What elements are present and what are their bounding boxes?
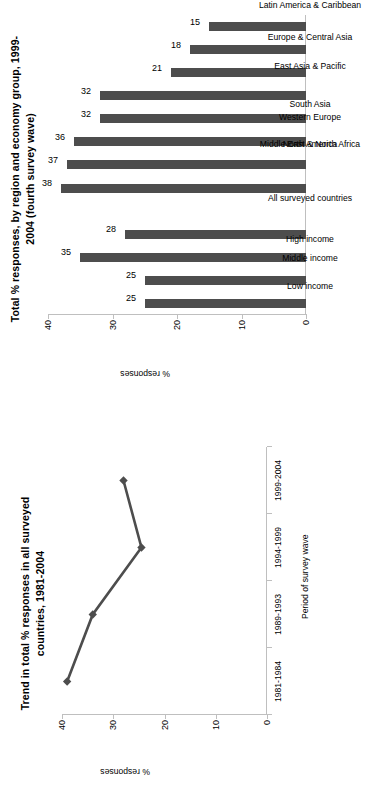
line-category-axis-label: Period of survey wave [300,534,310,619]
bar-item: 25 [48,292,306,315]
bar-category-slot: Low income [306,292,366,315]
bar-value-label: 32 [81,86,91,96]
bar-value-axis-label: % responses [120,369,170,379]
line-category-label: 1981-1984 [273,661,289,702]
bar-value-label: 35 [61,247,71,257]
bar-category-slot: Western Europe [306,130,366,153]
bar-category-slot: Middle East & North Africa [306,177,366,200]
bar-value-label: 37 [48,155,58,165]
line-x-tick [267,513,272,514]
bar-category-slot: North America [306,153,366,176]
bar-value-label: 32 [81,109,91,119]
bar-y-tick-label: 10 [237,320,247,330]
line-y-tick-label: 40 [57,720,67,730]
line-chart-title: Trend in total % responses in all survey… [18,486,48,721]
line-x-tick [267,580,272,581]
bar-gap [48,200,306,223]
line-y-tick-label: 20 [160,720,170,730]
bar-item: 25 [48,269,306,292]
line-category-slot: 1989-1993 [267,581,289,648]
bar-category-labels: Low incomeMiddle incomeHigh incomeAll su… [306,15,366,315]
bar-item: 35 [48,246,306,269]
bar-value-label: 25 [126,293,136,303]
bar [100,114,306,123]
bar-value-label: 21 [152,63,162,73]
line-x-tick [267,714,272,715]
bar [80,253,306,262]
line-x-tick [267,647,272,648]
bar-category-slot: All surveyed countries [306,223,366,246]
bar [67,161,306,170]
bar-chart-title: Total % responses, by region and economy… [8,29,38,329]
line-x-tick [267,446,272,447]
line-marker [63,677,71,685]
line-category-label: 1994-1999 [273,527,289,568]
bar-item: 28 [48,223,306,246]
bar [100,91,306,100]
bar-y-tick-label: 30 [108,320,118,330]
bar [145,299,306,308]
bar [61,184,306,193]
bar-item: 32 [48,107,306,130]
bar-category-slot: Europe & Central Asia [306,61,366,84]
line-series [62,447,267,715]
bar-category-slot: Middle income [306,269,366,292]
bar [209,22,306,31]
line-value-axis-label: % responses [100,767,150,777]
bar-value-label: 38 [42,178,52,188]
bar-category-slot: South Asia [306,107,366,130]
bar-value-label: 36 [55,132,65,142]
bar-y-tick-label: 40 [43,320,53,330]
bar-item: 37 [48,153,306,176]
bar-series: 252535283837363232211815 [48,15,306,315]
bar [145,276,306,285]
line-y-tick-label: 30 [108,720,118,730]
bar-value-label: 18 [171,40,181,50]
bar-chart-panel: Total % responses, by region and economy… [0,0,356,399]
bar-value-label: 28 [106,224,116,234]
bar-value-label: 25 [126,270,136,280]
line-category-slot: 1994-1999 [267,514,289,581]
line-category-label: 1999-2004 [273,460,289,501]
bar-category-slot: High income [306,246,366,269]
line-path [67,481,141,682]
bar-chart-plot-area: 010203040 252535283837363232211815 Low i… [48,15,306,315]
bar-y-tick-label: 0 [301,320,311,325]
line-chart-panel: Trend in total % responses in all survey… [0,400,356,799]
bar-category-slot: Latin America & Caribbean [306,38,366,61]
line-chart-plot-area: 010203040 1981-19841989-19931994-1999199… [62,447,267,715]
line-category-slot: 1981-1984 [267,648,289,715]
bar-category-label: Latin America & Caribbean [259,0,361,9]
bar-item: 32 [48,84,306,107]
line-category-label: 1989-1993 [273,594,289,635]
bar-value-label: 15 [190,17,200,27]
bar-category-slot: East Asia & Pacific [306,84,366,107]
bar-y-tick-label: 20 [172,320,182,330]
line-category-labels: 1981-19841989-19931994-19991999-2004 [267,447,289,715]
line-y-tick-label: 10 [211,720,221,730]
bar [190,45,306,54]
line-y-tick-label: 0 [262,720,272,725]
bar-category-slot: Sub-Saharan Africa [306,15,366,38]
bar [125,230,306,239]
line-category-slot: 1999-2004 [267,447,289,514]
line-marker [119,476,127,484]
bar-category-slot [306,200,366,223]
bar-item: 21 [48,61,306,84]
